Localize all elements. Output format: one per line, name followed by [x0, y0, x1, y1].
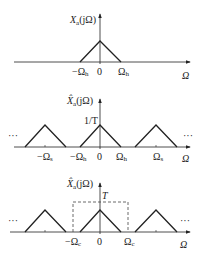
tick-neg-omega-c: −Ωc	[65, 236, 81, 248]
panel-reconstruction-filter: X̂a(jΩ) T ··· ··· −Ωc 0 Ωc Ω	[8, 177, 190, 250]
panel-original-spectrum: Xa(jΩ) −Ωh 0 Ωh Ω	[14, 14, 190, 81]
ellipsis-right: ···	[180, 215, 190, 226]
tick-zero: 0	[97, 66, 102, 77]
tick-neg-omega-h: −Ωh	[72, 66, 89, 78]
tick-omega-s: Ωs	[153, 151, 163, 163]
spectrum-triangle-left	[25, 210, 66, 232]
spectrum-triangle-center	[80, 125, 121, 147]
y-axis-label: X̂a(jΩ)	[66, 94, 93, 108]
x-axis-label: Ω	[182, 153, 189, 164]
y-axis-label: Xa(jΩ)	[69, 14, 96, 27]
panel-sampled-spectrum: X̂a(jΩ) 1/T ··· ··· −Ωs −Ωh 0 Ωh Ωs Ω	[8, 94, 193, 164]
peak-label: 1/T	[84, 115, 98, 126]
filter-gain-label: T	[102, 190, 109, 201]
tick-zero: 0	[97, 151, 102, 162]
tick-omega-h: Ωh	[118, 66, 129, 78]
y-axis-label: X̂a(jΩ)	[66, 177, 93, 191]
tick-neg-omega-h: −Ωh	[70, 151, 87, 163]
x-axis-label: Ω	[180, 239, 187, 250]
lowpass-filter-box	[73, 202, 128, 232]
tick-omega-c: Ωc	[124, 236, 135, 248]
ellipsis-left: ···	[8, 130, 18, 141]
tick-zero: 0	[97, 236, 102, 247]
ellipsis-left: ···	[8, 215, 18, 226]
spectrum-triangle-right	[135, 210, 177, 232]
spectrum-triangle-left	[25, 125, 66, 147]
spectrum-triangle	[80, 41, 121, 62]
tick-neg-omega-s: −Ωs	[37, 151, 53, 163]
spectrum-triangle-right	[135, 125, 177, 147]
x-axis-label: Ω	[182, 70, 189, 81]
ellipsis-right: ···	[183, 130, 193, 141]
sampling-diagram: Xa(jΩ) −Ωh 0 Ωh Ω X̂a(jΩ) 1/T ··· ··· −Ω…	[0, 0, 199, 254]
tick-omega-h: Ωh	[116, 151, 127, 163]
spectrum-triangle-center	[80, 210, 121, 232]
